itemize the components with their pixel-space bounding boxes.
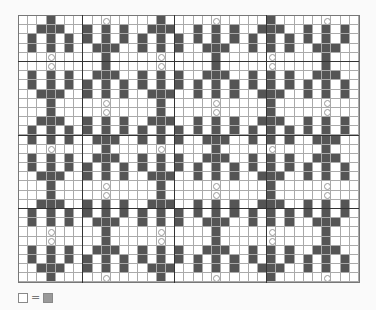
chart-cell <box>295 264 304 273</box>
chart-cell <box>129 209 138 218</box>
thick-grid-line <box>18 208 359 209</box>
chart-cell <box>295 62 304 71</box>
chart-cell <box>295 25 304 34</box>
chart-cell <box>28 34 37 43</box>
chart-cell <box>93 264 102 273</box>
chart-cell <box>285 135 294 144</box>
chart-cell <box>56 255 65 264</box>
chart-cell <box>83 246 92 255</box>
chart-cell <box>304 16 313 25</box>
chart-cell <box>331 227 340 236</box>
chart-cell <box>47 62 56 71</box>
chart-cell <box>240 62 249 71</box>
circle-stitch-icon <box>213 183 220 190</box>
chart-cell <box>129 62 138 71</box>
chart-cell <box>295 16 304 25</box>
chart-cell <box>83 273 92 282</box>
chart-cell <box>102 209 111 218</box>
chart-cell <box>285 145 294 154</box>
chart-cell <box>350 62 359 71</box>
chart-cell <box>350 44 359 53</box>
chart-cell <box>175 172 184 181</box>
chart-cell <box>148 154 157 163</box>
chart-cell <box>341 273 350 282</box>
chart-cell <box>129 117 138 126</box>
chart-cell <box>175 34 184 43</box>
chart-cell <box>28 172 37 181</box>
chart-cell <box>304 246 313 255</box>
chart-cell <box>203 90 212 99</box>
chart-cell <box>138 246 147 255</box>
chart-cell <box>65 172 74 181</box>
chart-cell <box>111 16 120 25</box>
chart-cell <box>120 273 129 282</box>
chart-cell <box>138 273 147 282</box>
chart-cell <box>148 255 157 264</box>
chart-cell <box>249 80 258 89</box>
chart-cell <box>157 71 166 80</box>
chart-cell <box>37 191 46 200</box>
chart-cell <box>194 25 203 34</box>
chart-cell <box>102 246 111 255</box>
chart-cell <box>138 218 147 227</box>
chart-cell <box>102 117 111 126</box>
chart-cell <box>331 71 340 80</box>
chart-cell <box>212 44 221 53</box>
chart-cell <box>19 237 28 246</box>
chart-cell <box>276 117 285 126</box>
chart-cell <box>37 80 46 89</box>
chart-cell <box>341 264 350 273</box>
chart-cell <box>249 172 258 181</box>
chart-cell <box>157 80 166 89</box>
chart-cell <box>175 71 184 80</box>
chart-cell <box>28 191 37 200</box>
chart-cell <box>120 163 129 172</box>
chart-cell <box>175 191 184 200</box>
chart-cell <box>28 255 37 264</box>
chart-cell <box>331 209 340 218</box>
chart-cell <box>148 44 157 53</box>
chart-cell <box>212 218 221 227</box>
chart-cell <box>129 172 138 181</box>
chart-cell <box>350 90 359 99</box>
chart-cell <box>148 117 157 126</box>
chart-cell <box>120 209 129 218</box>
chart-cell <box>203 16 212 25</box>
chart-cell <box>47 117 56 126</box>
chart-cell <box>350 16 359 25</box>
chart-cell <box>341 25 350 34</box>
chart-cell <box>322 255 331 264</box>
chart-cell <box>175 16 184 25</box>
chart-cell <box>322 135 331 144</box>
chart-cell <box>203 172 212 181</box>
chart-cell <box>184 264 193 273</box>
circle-stitch-icon <box>103 183 110 190</box>
chart-cell <box>47 34 56 43</box>
chart-cell <box>230 181 239 190</box>
chart-cell <box>350 181 359 190</box>
chart-cell <box>120 246 129 255</box>
chart-cell <box>184 71 193 80</box>
chart-cell <box>47 145 56 154</box>
chart-cell <box>19 181 28 190</box>
chart-cell <box>37 246 46 255</box>
chart-cell <box>331 44 340 53</box>
chart-cell <box>129 25 138 34</box>
chart-cell <box>28 218 37 227</box>
chart-cell <box>221 246 230 255</box>
chart-cell <box>129 181 138 190</box>
chart-cell <box>212 209 221 218</box>
chart-cell <box>230 135 239 144</box>
chart-cell <box>249 227 258 236</box>
chart-cell <box>267 34 276 43</box>
chart-cell <box>295 163 304 172</box>
chart-cell <box>212 145 221 154</box>
circle-stitch-icon <box>324 18 331 25</box>
chart-cell <box>313 135 322 144</box>
chart-cell <box>313 108 322 117</box>
chart-cell <box>65 80 74 89</box>
chart-cell <box>65 145 74 154</box>
chart-cell <box>285 246 294 255</box>
circle-stitch-icon <box>103 18 110 25</box>
chart-cell <box>157 246 166 255</box>
